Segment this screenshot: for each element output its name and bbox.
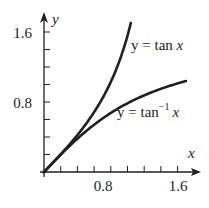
x-axis-label: x <box>187 145 195 161</box>
x-tick-label-1.6: 1.6 <box>169 178 188 194</box>
tan-curve <box>44 23 131 172</box>
x-tick-label-0.8: 0.8 <box>94 178 113 194</box>
y-tick-label-1.6: 1.6 <box>13 25 32 41</box>
y-tick-label-0.8: 0.8 <box>13 95 32 111</box>
arctan-curve-label: y = tan−1x <box>117 101 179 120</box>
y-axis-label: y <box>50 11 59 27</box>
function-graph: y x 1.6 0.8 0.8 1.6 y = tan x y = tan−1x <box>0 0 209 208</box>
tan-curve-label: y = tan x <box>131 37 184 53</box>
arctan-curve <box>44 81 186 172</box>
